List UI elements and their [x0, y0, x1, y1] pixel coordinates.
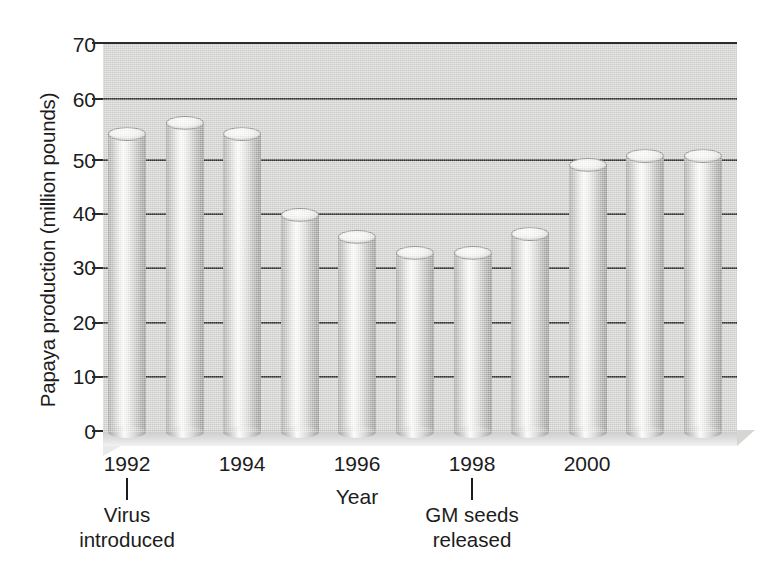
bar-1991 — [108, 127, 146, 432]
y-tick-label-0: 0 — [50, 421, 96, 442]
y-tick-label-70: 70 — [50, 34, 96, 55]
bar-cylinder-body — [684, 156, 722, 432]
annotation-gm-text: GM seeds released — [397, 502, 547, 552]
bar-cylinder-body — [569, 165, 607, 432]
y-tick-label-30: 30 — [50, 257, 96, 278]
plinth-right-edge — [737, 430, 755, 446]
bar-top-ellipse — [569, 158, 607, 172]
y-tick-label-40: 40 — [50, 203, 96, 224]
bar-top-ellipse — [281, 208, 319, 222]
bar-base-ellipse — [223, 426, 261, 438]
bar-1995 — [338, 230, 376, 432]
annotation-virus-text: Virus introduced — [52, 502, 202, 552]
annotation-leader-line — [471, 478, 473, 500]
y-tick-label-50: 50 — [50, 150, 96, 171]
bar-cylinder-body — [396, 253, 434, 432]
y-tick-mark-50 — [92, 159, 103, 161]
bar-cylinder-body — [223, 134, 261, 432]
bar-2001 — [684, 149, 722, 432]
bar-cylinder-body — [454, 253, 492, 432]
bar-2000 — [626, 149, 664, 432]
y-tick-mark-0 — [92, 430, 103, 432]
bar-1996 — [396, 246, 434, 432]
y-tick-mark-40 — [92, 213, 103, 215]
bar-top-ellipse — [338, 230, 376, 244]
y-tick-label-20: 20 — [50, 312, 96, 333]
bar-base-ellipse — [396, 426, 434, 438]
bar-1999 — [569, 158, 607, 432]
annotation-gm-line2: released — [397, 527, 547, 552]
papaya-production-bar-chart: Papaya production (million pounds) 70 60… — [0, 0, 781, 580]
y-tick-mark-70 — [92, 42, 103, 44]
y-tick-mark-60 — [92, 98, 103, 100]
bar-top-ellipse — [166, 116, 204, 130]
y-tick-label-10: 10 — [50, 366, 96, 387]
annotation-leader-line — [126, 478, 128, 500]
bar-base-ellipse — [684, 426, 722, 438]
y-tick-mark-10 — [92, 376, 103, 378]
y-tick-mark-30 — [92, 267, 103, 269]
bar-1993 — [223, 127, 261, 432]
x-axis-title: Year — [312, 485, 402, 509]
bar-base-ellipse — [281, 426, 319, 438]
bar-cylinder-body — [338, 237, 376, 432]
annotation-gm-line1: GM seeds — [397, 502, 547, 527]
bar-cylinder-body — [108, 134, 146, 432]
annotation-virus-line2: introduced — [52, 527, 202, 552]
bar-base-ellipse — [511, 426, 549, 438]
bar-base-ellipse — [454, 426, 492, 438]
bar-base-ellipse — [166, 426, 204, 438]
bar-cylinder-body — [511, 234, 549, 432]
bar-base-ellipse — [108, 426, 146, 438]
bar-cylinder-body — [166, 123, 204, 432]
annotation-virus-line1: Virus — [52, 502, 202, 527]
bar-1992 — [166, 116, 204, 432]
gridline-70 — [103, 42, 737, 44]
bar-base-ellipse — [569, 426, 607, 438]
bar-cylinder-body — [626, 156, 664, 432]
y-tick-mark-20 — [92, 322, 103, 324]
y-tick-label-60: 60 — [50, 89, 96, 110]
gridline-60 — [103, 98, 737, 100]
bar-cylinder-body — [281, 215, 319, 432]
plinth-bevel — [103, 446, 121, 456]
y-axis-tick-labels: 70 60 50 40 30 20 10 0 — [40, 0, 96, 580]
bar-1998 — [511, 227, 549, 432]
bar-1997 — [454, 246, 492, 432]
plot-area — [103, 44, 737, 432]
bar-top-ellipse — [511, 227, 549, 241]
bar-1994 — [281, 208, 319, 432]
